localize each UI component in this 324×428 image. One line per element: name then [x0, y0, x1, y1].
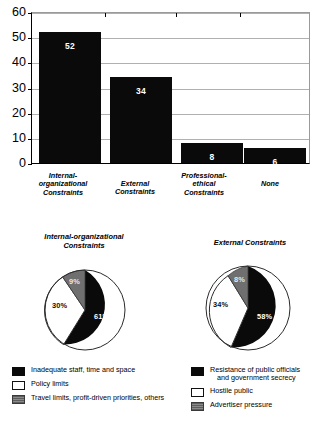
legend-swatch-gray-icon: [12, 395, 25, 404]
bar-internal-organizational-constraints[interactable]: 52: [39, 32, 101, 163]
category-label-line: Constraints: [95, 188, 175, 196]
category-label-internal-organizational-constraints: Internal- organizational Constraints: [22, 172, 104, 197]
bar-chart-section: 52 34 8 6 60 50 40 30 20 10 0 Internal- …: [0, 0, 324, 222]
ytick-label-20: 20: [0, 107, 26, 119]
category-label-line: Constraints: [22, 189, 104, 197]
legend-internal-organizational: Inadequate staff, time and space Policy …: [12, 366, 170, 408]
xtick-mark-2: [176, 13, 177, 17]
legend-label: Inadequate staff, time and space: [31, 366, 135, 374]
gridline-60: [32, 13, 309, 14]
pie-value-label-inadequate-staff: 61%: [94, 312, 109, 321]
bar-value-label: 6: [244, 157, 306, 167]
ytick-label-60: 60: [0, 6, 26, 18]
bar-value-label: 52: [39, 41, 101, 51]
bar-chart-plot-area: 52 34 8 6: [31, 12, 310, 164]
legend-label-cont: and government secrecy: [210, 374, 300, 382]
ytick-mark-20: [28, 114, 32, 115]
category-label-external-constraints: External Constraints: [95, 180, 175, 197]
pie-value-label-hostile-public: 34%: [213, 300, 228, 309]
legend-external-constraints: Resistance of public officials and gover…: [191, 366, 324, 415]
legend-item-inadequate-staff[interactable]: Inadequate staff, time and space: [12, 366, 170, 376]
legend-swatch-white-icon: [12, 381, 25, 390]
ytick-label-40: 40: [0, 56, 26, 68]
legend-label: Hostile public: [210, 387, 253, 395]
legend-item-advertiser-pressure[interactable]: Advertiser pressure: [191, 401, 324, 411]
pie-chart-external-constraints[interactable]: 58% 34% 8%: [205, 265, 291, 351]
legend-label: Travel limits, profit-driven priorities,…: [31, 394, 164, 402]
ytick-mark-30: [28, 89, 32, 90]
pie-title-internal-organizational: Internal-organizational Constraints: [18, 233, 150, 250]
legend-label: Advertiser pressure: [210, 401, 272, 409]
ytick-mark-60: [28, 13, 32, 14]
pie-value-label-policy-limits: 30%: [52, 301, 67, 310]
pie-value-label-travel-limits: 9%: [69, 277, 80, 286]
pie-chart-internal-organizational[interactable]: 61% 30% 9%: [44, 269, 126, 351]
ytick-label-50: 50: [0, 31, 26, 43]
ytick-label-30: 30: [0, 82, 26, 94]
pie-title-external-constraints: External Constraints: [190, 239, 310, 248]
bar-professional-ethical-constraints[interactable]: 8: [181, 143, 243, 163]
bar-value-label: 34: [110, 86, 172, 96]
xtick-mark-3: [240, 13, 241, 17]
ytick-mark-10: [28, 139, 32, 140]
pie-title-line: External Constraints: [190, 239, 310, 248]
category-label-none: None: [240, 180, 300, 188]
ytick-mark-0: [28, 164, 32, 165]
legend-swatch-gray-icon: [191, 402, 204, 411]
legend-item-policy-limits[interactable]: Policy limits: [12, 380, 170, 390]
pie-title-line: Constraints: [18, 242, 150, 251]
xtick-mark-1: [105, 13, 106, 17]
bar-none[interactable]: 6: [244, 148, 306, 163]
ytick-mark-40: [28, 63, 32, 64]
legend-swatch-black-icon: [12, 367, 25, 376]
bar-external-constraints[interactable]: 34: [110, 77, 172, 163]
legend-item-resistance-public-officials[interactable]: Resistance of public officials and gover…: [191, 366, 324, 383]
pie-value-label-resistance-public-officials: 58%: [257, 312, 272, 321]
ytick-label-10: 10: [0, 132, 26, 144]
legend-label-block: Resistance of public officials and gover…: [210, 366, 300, 383]
legend-item-travel-limits[interactable]: Travel limits, profit-driven priorities,…: [12, 394, 170, 404]
pie-svg: [44, 269, 126, 351]
ytick-label-0: 0: [0, 157, 26, 169]
category-label-professional-ethical-constraints: Professional- ethical Constraints: [164, 172, 244, 197]
ytick-mark-50: [28, 38, 32, 39]
pie-value-label-advertiser-pressure: 8%: [234, 275, 245, 284]
category-label-line: None: [240, 180, 300, 188]
category-label-line: Constraints: [164, 189, 244, 197]
legend-item-hostile-public[interactable]: Hostile public: [191, 387, 324, 397]
legend-label: Policy limits: [31, 380, 69, 388]
bar-value-label: 8: [181, 152, 243, 162]
legend-swatch-black-icon: [191, 367, 204, 376]
legend-swatch-white-icon: [191, 388, 204, 397]
